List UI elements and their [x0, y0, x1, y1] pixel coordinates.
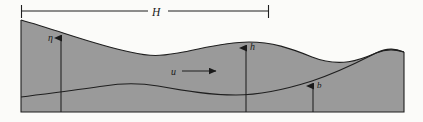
shallow-water-schematic-figure: H η u h b [0, 0, 423, 122]
label-b: b [317, 80, 322, 90]
label-H: H [151, 6, 161, 18]
filled-region-group [21, 20, 404, 112]
label-h: h [250, 41, 255, 52]
label-eta: η [48, 32, 53, 43]
label-u: u [171, 66, 176, 77]
H-extent-bracket: H [21, 5, 269, 18]
figure-canvas: H η u h b [0, 0, 423, 122]
water-body-fill [21, 20, 404, 112]
